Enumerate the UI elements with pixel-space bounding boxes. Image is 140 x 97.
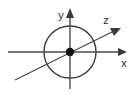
- z-axis-label: z: [103, 14, 109, 26]
- y-axis-label: y: [58, 9, 64, 21]
- y-axis-arrowhead: [66, 8, 74, 18]
- x-axis-label: x: [121, 57, 127, 69]
- origin-dot: [66, 48, 74, 56]
- x-axis-arrowhead: [118, 48, 127, 56]
- axes-diagram-svg: x y z: [0, 0, 140, 97]
- z-axis-line: [15, 30, 116, 80]
- coordinate-axes-figure: x y z: [0, 0, 140, 97]
